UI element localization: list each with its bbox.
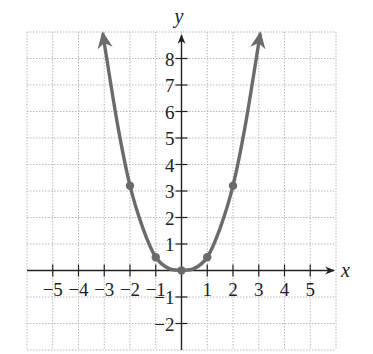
- data-point: [152, 253, 160, 261]
- x-tick-label: −4: [68, 279, 89, 300]
- y-axis-label: y: [173, 5, 184, 28]
- x-tick-label: −5: [43, 279, 63, 300]
- y-tick-label: 2: [165, 208, 175, 229]
- x-tick-label: −2: [120, 279, 140, 300]
- parabola-chart: −5−4−3−2−112345−2−112345678 x y: [0, 0, 373, 354]
- y-tick-label: 3: [165, 181, 175, 202]
- x-tick-label: 3: [254, 279, 264, 300]
- x-tick-label: 4: [280, 279, 290, 300]
- y-tick-label: 8: [165, 49, 175, 70]
- y-tick-label: −1: [154, 287, 174, 308]
- data-point: [203, 253, 211, 261]
- curve-branch: [182, 35, 261, 271]
- y-tick-label: 7: [165, 75, 175, 96]
- x-tick-label: −3: [94, 279, 114, 300]
- x-tick-label: 1: [203, 279, 213, 300]
- y-tick-label: 4: [165, 155, 175, 176]
- y-tick-label: 1: [165, 234, 175, 255]
- data-point: [177, 266, 185, 274]
- data-point: [126, 182, 134, 190]
- y-tick-label: −2: [154, 314, 174, 335]
- y-tick-label: 5: [165, 128, 175, 149]
- x-tick-label: 2: [228, 279, 238, 300]
- x-tick-label: 5: [306, 279, 316, 300]
- data-point: [229, 182, 237, 190]
- axes: [27, 35, 334, 350]
- x-axis-label: x: [340, 259, 350, 281]
- y-tick-label: 6: [165, 102, 175, 123]
